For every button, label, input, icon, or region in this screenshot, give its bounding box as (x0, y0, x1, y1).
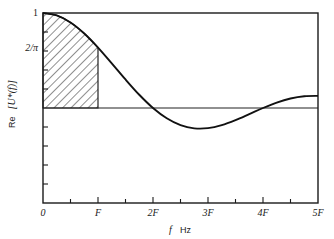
x-tick-label-F: F (94, 207, 102, 218)
x-tick-label-5F: 5F (312, 207, 324, 218)
hatched-region (43, 13, 98, 108)
chart: 1 2/π 0 F 2F 3F 4F 5F f Hz Re [U*(f)] (0, 0, 334, 239)
x-axis-label-unit: Hz (180, 225, 191, 235)
x-axis-label-variable: f (169, 224, 173, 235)
y-tick-label-1: 1 (33, 7, 38, 18)
x-tick-label-0: 0 (41, 207, 46, 218)
x-tick-label-2F: 2F (147, 207, 159, 218)
x-tick-label-4F: 4F (257, 207, 269, 218)
x-axis-label: f Hz (169, 219, 191, 236)
y-axis-label-prefix: Re (7, 116, 17, 128)
x-tick-label-3F: 3F (201, 207, 214, 218)
y-axis-label-expression: [U*(f)] (6, 80, 18, 110)
y-tick-label-2-over-pi: 2/π (25, 42, 39, 53)
y-axis-label: Re [U*(f)] (1, 80, 18, 128)
